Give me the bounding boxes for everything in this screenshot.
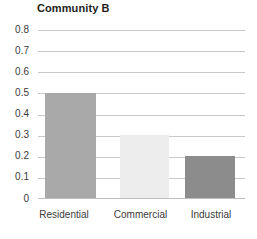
y-tick-label-0.4: 0.4 (3, 109, 29, 119)
y-tick-label-0: 0 (3, 194, 29, 204)
chart-title: Community B (37, 2, 110, 14)
gridline-0.6 (38, 72, 245, 73)
gridline-0.7 (38, 51, 245, 52)
bar-chart: Community B 0.8 0.7 0.6 0.5 0.4 0.3 0.2 … (0, 0, 257, 239)
y-tick-label-0.2: 0.2 (3, 151, 29, 161)
bar-industrial[interactable] (185, 156, 235, 198)
bar-commercial[interactable] (120, 135, 169, 198)
gridline-0.8 (38, 30, 245, 31)
y-tick-label-0.1: 0.1 (3, 172, 29, 182)
x-tick-label-commercial: Commercial (103, 209, 178, 221)
y-tick-label-0.6: 0.6 (3, 67, 29, 77)
gridline-0-baseline (38, 198, 245, 199)
y-tick-label-0.8: 0.8 (3, 25, 29, 35)
bar-residential[interactable] (45, 93, 96, 198)
plot-area (38, 30, 245, 199)
y-tick-label-0.5: 0.5 (3, 88, 29, 98)
x-tick-label-residential: Residential (26, 209, 102, 221)
x-tick-label-industrial: Industrial (178, 209, 244, 221)
y-tick-label-0.7: 0.7 (3, 46, 29, 56)
y-tick-label-0.3: 0.3 (3, 130, 29, 140)
